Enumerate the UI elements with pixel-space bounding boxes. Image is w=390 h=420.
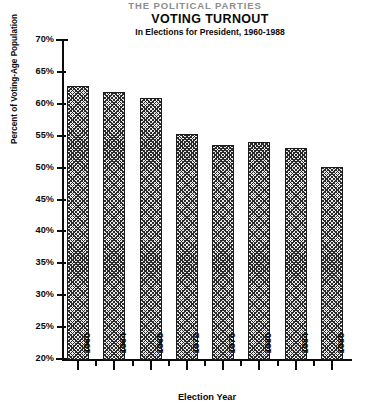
cut-off-header-text: THE POLITICAL PARTIES: [128, 0, 262, 9]
x-tick-minor: [240, 361, 242, 366]
x-tick-label: 1960: [82, 333, 92, 373]
bar-1972: [176, 134, 198, 360]
y-tick-25pct: [57, 326, 66, 328]
y-tick-40pct: [57, 230, 66, 232]
y-tick-label: 50%: [14, 162, 54, 172]
x-tick-1960: [77, 361, 79, 370]
y-tick-label: 25%: [14, 321, 54, 331]
y-tick-30pct: [57, 294, 66, 296]
y-tick-35pct: [57, 262, 66, 264]
y-tick-label: 70%: [14, 34, 54, 44]
y-tick-45pct: [57, 199, 66, 201]
x-tick-1972: [186, 361, 188, 370]
bar-1984: [285, 148, 307, 360]
x-tick-1980: [258, 361, 260, 370]
x-tick-label: 1964: [118, 333, 128, 373]
bar-1980: [248, 142, 270, 360]
y-axis-line: [62, 40, 64, 361]
y-tick-label: 35%: [14, 257, 54, 267]
y-tick-55pct: [57, 135, 66, 137]
x-tick-label: 1972: [191, 333, 201, 373]
x-tick-label: 1980: [263, 333, 273, 373]
x-tick-minor: [95, 361, 97, 366]
chart-page: THE POLITICAL PARTIES VOTING TURNOUT In …: [0, 0, 390, 420]
y-tick-70pct: [56, 39, 68, 41]
y-tick-label: 60%: [14, 98, 54, 108]
bar-1968: [140, 98, 162, 360]
y-tick-label: 20%: [14, 353, 54, 363]
x-tick-label: 1968: [155, 333, 165, 373]
y-tick-65pct: [57, 71, 66, 73]
x-tick-minor: [168, 361, 170, 366]
x-tick-minor: [277, 361, 279, 366]
x-axis-title: Election Year: [62, 392, 352, 402]
x-tick-1964: [113, 361, 115, 370]
bar-1976: [212, 145, 234, 360]
x-tick-1976: [222, 361, 224, 370]
bar-1960: [67, 86, 89, 360]
bar-1988: [321, 167, 343, 360]
x-tick-label: 1984: [300, 333, 310, 373]
x-tick-1988: [331, 361, 333, 370]
cut-off-header: THE POLITICAL PARTIES: [0, 0, 390, 9]
y-tick-60pct: [57, 103, 66, 105]
x-tick-label: 1988: [336, 333, 346, 373]
y-tick-label: 65%: [14, 66, 54, 76]
x-tick-minor: [313, 361, 315, 366]
x-tick-label: 1976: [227, 333, 237, 373]
y-tick-label: 55%: [14, 130, 54, 140]
y-tick-50pct: [57, 167, 66, 169]
y-tick-label: 30%: [14, 289, 54, 299]
x-tick-1984: [295, 361, 297, 370]
x-tick-minor: [204, 361, 206, 366]
x-tick-minor: [132, 361, 134, 366]
y-tick-label: 45%: [14, 194, 54, 204]
chart-subtitle: In Elections for President, 1960-1988: [60, 27, 360, 37]
x-tick-1968: [150, 361, 152, 370]
y-tick-label: 40%: [14, 225, 54, 235]
bar-1964: [103, 92, 125, 360]
chart-title: VOTING TURNOUT: [60, 12, 360, 26]
plot-area: 70%65%60%55%50%45%40%35%30%25%20% 196019…: [62, 40, 352, 360]
